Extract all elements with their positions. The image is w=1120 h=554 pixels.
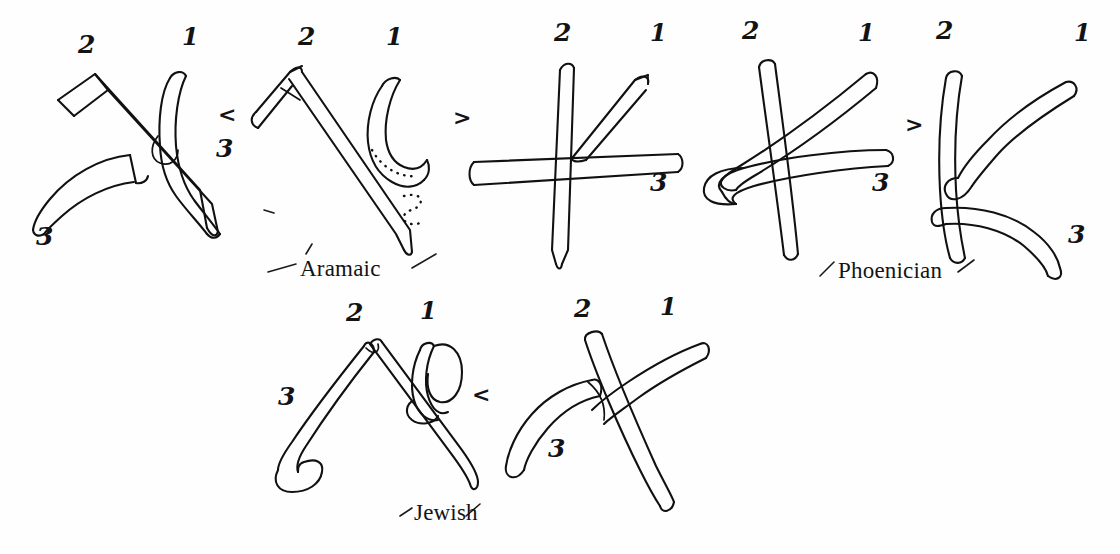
glyph-3-strokes — [470, 64, 683, 269]
comparison-arrow-2: > — [453, 105, 471, 130]
stroke-label-3-glyph-3: 3 — [650, 168, 667, 197]
stroke-label-2-glyph-2: 2 — [298, 22, 315, 51]
stroke-label-1-glyph-1: 1 — [182, 22, 199, 51]
stroke-label-1-glyph-4: 1 — [858, 18, 875, 47]
glyph-2-strokes — [252, 66, 429, 255]
glyph-6-strokes — [276, 339, 478, 492]
script-label-aramaic: Aramaic — [300, 256, 381, 282]
stroke-label-2-glyph-6: 2 — [346, 298, 363, 327]
stroke-label-1-glyph-5: 1 — [1074, 18, 1091, 47]
comparison-arrow-3: > — [905, 112, 923, 137]
stroke-label-2-glyph-4: 2 — [742, 16, 759, 45]
glyph-5-strokes — [932, 71, 1077, 279]
diagram-canvas: 2 1 3 2 1 2 1 3 2 1 3 2 1 3 2 1 3 2 1 3 … — [0, 0, 1120, 554]
stroke-label-1-glyph-6: 1 — [420, 296, 437, 325]
glyph-1-strokes — [33, 72, 220, 238]
ink-drawing — [0, 0, 1120, 554]
stroke-label-3-glyph-1-alt: 3 — [216, 134, 233, 163]
stroke-label-1-glyph-2: 1 — [386, 22, 403, 51]
stroke-label-2-glyph-3: 2 — [554, 18, 571, 47]
stroke-label-3-glyph-1: 3 — [36, 222, 53, 251]
glyph-7-strokes — [506, 332, 709, 511]
glyph-4-strokes — [704, 60, 893, 260]
comparison-arrow-1: < — [218, 102, 236, 127]
stroke-label-1-glyph-3: 1 — [650, 18, 667, 47]
stroke-label-2-glyph-5: 2 — [936, 16, 953, 45]
stroke-label-3-glyph-5: 3 — [1068, 220, 1085, 249]
stroke-label-2-glyph-7: 2 — [574, 294, 591, 323]
stroke-label-3-glyph-4: 3 — [872, 168, 889, 197]
script-label-jewish: Jewish — [414, 500, 478, 526]
stroke-label-3-glyph-6: 3 — [278, 382, 295, 411]
stroke-label-3-glyph-7: 3 — [548, 434, 565, 463]
script-label-phoenician: Phoenician — [838, 258, 942, 284]
comparison-arrow-4: < — [472, 382, 490, 407]
label-decoration-ticks — [268, 244, 974, 516]
stroke-label-2-glyph-1: 2 — [78, 30, 95, 59]
stroke-label-1-glyph-7: 1 — [660, 292, 677, 321]
